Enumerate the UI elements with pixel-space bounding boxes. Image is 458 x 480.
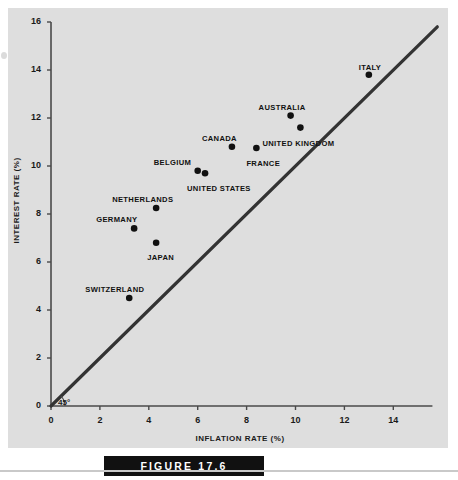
data-point-label: AUSTRALIA [259,103,306,112]
data-point-label: SWITZERLAND [85,285,144,294]
x-tick-label: 2 [89,415,111,425]
data-point-label: GERMANY [96,215,137,224]
data-point [153,205,160,212]
data-point [131,225,138,232]
data-point [366,72,373,79]
x-tick-label: 0 [40,415,62,425]
scatter-plot [0,0,458,480]
y-axis-title: INTEREST RATE (%) [12,141,21,261]
data-point [153,240,160,247]
data-point-label: CANADA [202,134,237,143]
data-point [297,124,304,131]
data-point [253,145,260,152]
data-point-label: BELGIUM [154,158,191,167]
x-tick-label: 14 [382,415,404,425]
y-tick-label: 16 [19,16,41,26]
y-tick-label: 10 [19,160,41,170]
x-tick-label: 4 [138,415,160,425]
data-point-label: UNITED KINGDOM [262,139,334,148]
x-tick-label: 12 [333,415,355,425]
data-point-label: FRANCE [246,159,280,168]
data-point [229,144,236,151]
data-point-label: JAPAN [147,253,174,262]
data-point-label: ITALY [359,63,381,72]
x-tick-label: 6 [187,415,209,425]
y-tick-label: 0 [19,400,41,410]
x-tick-label: 10 [285,415,307,425]
data-point-label: UNITED STATES [187,184,251,193]
y-tick-label: 12 [19,112,41,122]
caption-divider-rule [0,470,458,472]
x-axis-title: INFLATION RATE (%) [140,434,340,443]
angle-annotation-45deg: 45° [58,398,70,407]
y-tick-label: 4 [19,304,41,314]
y-tick-label: 14 [19,64,41,74]
y-tick-label: 6 [19,256,41,266]
y-tick-label: 8 [19,208,41,218]
data-point-label: NETHERLANDS [112,195,173,204]
figure-caption-bar: FIGURE 17.6 [104,456,264,476]
data-point [287,112,294,119]
data-point [202,170,209,177]
figure-container: INTEREST RATE (%) INFLATION RATE (%) 45°… [0,0,458,480]
data-point [194,168,201,175]
data-point [126,295,133,302]
x-tick-label: 8 [236,415,258,425]
y-tick-label: 2 [19,352,41,362]
